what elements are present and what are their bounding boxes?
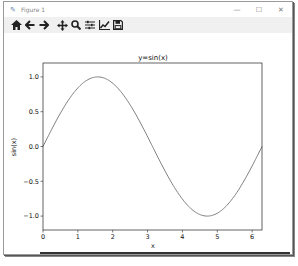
x-tick-label: 6 xyxy=(250,233,254,241)
x-tick-label: 5 xyxy=(215,233,219,241)
x-axis-label: x xyxy=(151,242,155,250)
y-tick-label: −0.5 xyxy=(23,178,39,186)
x-tick-label: 3 xyxy=(145,233,149,241)
save-icon xyxy=(113,20,123,30)
axes: 0123456−1.0−0.50.00.51.0 xyxy=(23,63,262,241)
chart-title: y=sin(x) xyxy=(138,54,168,62)
x-tick-label: 2 xyxy=(111,233,115,241)
maximize-button[interactable]: ☐ xyxy=(248,6,270,14)
sine-plot: y=sin(x) 0123456−1.0−0.50.00.51.0 x sin(… xyxy=(4,33,292,254)
sine-line xyxy=(43,77,262,216)
y-tick-label: −1.0 xyxy=(23,212,39,220)
navigation-toolbar xyxy=(4,17,292,33)
close-button[interactable]: ✕ xyxy=(270,6,292,14)
pan-button[interactable] xyxy=(56,19,68,31)
minimize-button[interactable]: — xyxy=(226,6,248,14)
forward-icon xyxy=(39,20,49,30)
back-button[interactable] xyxy=(24,19,36,31)
subplots-icon xyxy=(85,20,95,30)
figure-canvas[interactable]: y=sin(x) 0123456−1.0−0.50.00.51.0 x sin(… xyxy=(4,33,292,254)
back-icon xyxy=(25,20,35,30)
save-button[interactable] xyxy=(112,19,124,31)
pan-icon xyxy=(57,20,68,31)
x-tick-label: 1 xyxy=(76,233,80,241)
y-axis-label: sin(x) xyxy=(10,138,18,156)
window-title: Figure 1 xyxy=(21,6,226,13)
x-tick-label: 0 xyxy=(41,233,45,241)
y-tick-label: 0.5 xyxy=(29,108,39,116)
edit-axis-icon xyxy=(99,20,110,30)
zoom-icon xyxy=(71,20,81,30)
figure-window: ✎ Figure 1 — ☐ ✕ y=sin(x xyxy=(3,1,293,255)
zoom-button[interactable] xyxy=(70,19,82,31)
edit-axis-button[interactable] xyxy=(98,19,110,31)
x-tick-label: 4 xyxy=(180,233,184,241)
title-bar: ✎ Figure 1 — ☐ ✕ xyxy=(4,2,292,17)
app-icon: ✎ xyxy=(10,6,18,14)
y-tick-label: 1.0 xyxy=(29,73,39,81)
y-tick-label: 0.0 xyxy=(29,143,39,151)
window-shadow-edge xyxy=(40,252,290,254)
home-button[interactable] xyxy=(10,19,22,31)
forward-button[interactable] xyxy=(38,19,50,31)
subplots-button[interactable] xyxy=(84,19,96,31)
home-icon xyxy=(11,20,22,30)
